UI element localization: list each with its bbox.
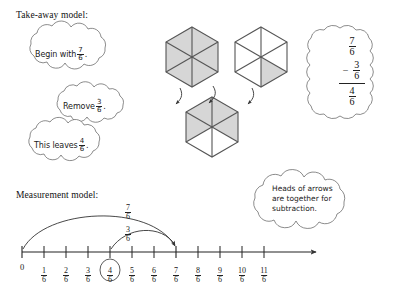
number-line-label-11: 11 6 <box>258 262 270 284</box>
arc-removed-three-sixths <box>111 230 175 249</box>
cloud-remove-period: . <box>103 102 105 111</box>
cloud-this-leaves-period: . <box>86 141 88 150</box>
callout-line-3: subtraction. <box>272 204 333 214</box>
number-line-label-10: 10 6 <box>236 262 248 284</box>
subtrahend-fraction: 3 6 <box>353 60 360 81</box>
number-line-label-3: 3 6 <box>84 262 92 284</box>
number-line-label-6: 6 6 <box>150 262 158 284</box>
hexagon-start-full <box>166 27 218 87</box>
callout-line-1: Heads of arrows <box>272 184 333 194</box>
fraction-four-sixths: 4 6 <box>79 138 85 153</box>
hexagon-start-extra <box>235 27 287 87</box>
cloud-remove-label: Remove <box>63 102 95 111</box>
vertical-subtraction: 7 6 − 3 6 4 6 <box>325 34 379 108</box>
number-line-label-2: 2 6 <box>62 262 70 284</box>
minus-operator: − <box>343 65 349 76</box>
difference-row: 4 6 <box>325 84 379 108</box>
number-line-label-4: 4 6 <box>106 262 114 284</box>
arc-label-three-sixths: 3 6 <box>124 214 132 243</box>
number-line-label-9: 9 6 <box>216 262 224 284</box>
cloud-begin-with-period: . <box>85 50 87 59</box>
arc-total-seven-sixths <box>23 216 175 249</box>
callout-line-2: are together for <box>272 194 333 204</box>
cloud-this-leaves-text: This leaves 4 6 . <box>34 138 88 153</box>
callout-text: Heads of arrows are together for subtrac… <box>272 184 333 214</box>
difference-fraction: 4 6 <box>349 86 356 107</box>
fraction-three-sixths: 3 6 <box>96 99 102 114</box>
arrow-hex1-to-result <box>176 88 182 104</box>
cloud-begin-with-text: Begin with 7 6 . <box>35 47 87 62</box>
minuend-fraction: 7 6 <box>349 36 356 57</box>
number-line-label-7: 7 6 <box>172 262 180 284</box>
cloud-remove-text: Remove 3 6 . <box>63 99 106 114</box>
number-line-label-5: 5 6 <box>128 262 136 284</box>
measurement-heading: Measurement model: <box>16 190 98 200</box>
number-line-label-8: 8 6 <box>194 262 202 284</box>
cloud-this-leaves-label: This leaves <box>34 141 78 150</box>
cloud-begin-with-label: Begin with <box>35 50 76 59</box>
subtrahend-row: − 3 6 <box>325 58 379 82</box>
number-line-label-zero: 0 <box>20 262 24 272</box>
arrow-hex2-to-result <box>248 88 254 104</box>
minuend-row: 7 6 <box>325 34 379 58</box>
fraction-seven-sixths: 7 6 <box>77 47 83 62</box>
takeaway-heading: Take-away model: <box>16 10 88 20</box>
number-line-label-1: 1 6 <box>40 262 48 284</box>
hexagon-result <box>186 97 238 157</box>
arc-label-three-sixths-fraction: 3 6 <box>125 226 131 243</box>
worksheet-page: Take-away model: Begin with 7 6 . Remove… <box>0 0 409 286</box>
